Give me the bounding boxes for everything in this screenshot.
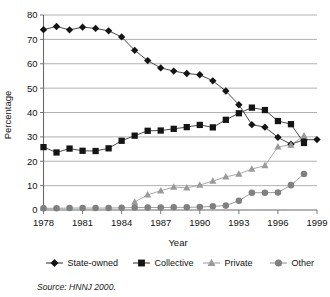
y-axis-title: Percentage — [2, 91, 13, 140]
data-point — [66, 205, 73, 212]
data-point — [301, 140, 307, 146]
data-point — [275, 118, 281, 124]
y-tick-label-20: 20 — [27, 156, 38, 167]
y-tick-label-50: 50 — [27, 83, 38, 94]
x-tick-label-1984: 1984 — [111, 217, 132, 228]
x-tick-label-1978: 1978 — [33, 217, 54, 228]
series-lines-group — [44, 26, 318, 208]
data-point — [249, 189, 256, 196]
data-point — [183, 204, 190, 211]
data-point — [301, 171, 308, 178]
data-point — [40, 144, 46, 150]
data-point — [145, 128, 151, 134]
data-point — [131, 198, 138, 204]
data-point — [184, 124, 190, 130]
data-point — [170, 204, 177, 211]
data-point — [79, 148, 85, 154]
triangle-marker-icon — [208, 259, 216, 266]
data-point — [40, 205, 47, 212]
data-point — [40, 26, 47, 33]
data-point — [210, 124, 216, 130]
gridlines-group — [44, 15, 318, 186]
y-tick-label-70: 70 — [27, 34, 38, 45]
data-point — [209, 77, 216, 84]
chart-legend: State-ownedCollectivePrivateOther — [46, 258, 314, 268]
data-point — [132, 133, 138, 139]
data-point — [197, 204, 204, 211]
data-point — [131, 204, 138, 211]
series-markers-private — [131, 132, 307, 205]
data-point — [183, 70, 190, 77]
series-markers-state-owned — [40, 23, 321, 148]
x-tick-label-1993: 1993 — [228, 217, 249, 228]
data-point — [79, 205, 86, 212]
data-point — [79, 24, 86, 31]
series-line-state-owned — [44, 26, 318, 144]
data-point — [105, 27, 112, 34]
data-point — [288, 121, 294, 127]
data-point — [171, 126, 177, 132]
data-point — [92, 205, 99, 212]
data-point — [53, 149, 59, 155]
y-tick-label-30: 30 — [27, 131, 38, 142]
legend-label-collective: Collective — [155, 258, 194, 268]
y-tick-labels-group: 01020304050607080 — [27, 9, 38, 215]
data-point — [274, 134, 281, 141]
data-point — [288, 182, 295, 189]
source-note: Source: HNNJ 2000. — [37, 282, 116, 292]
x-tick-label-1999: 1999 — [306, 217, 327, 228]
x-tick-labels-group: 19781981198419871990199319961999 — [33, 217, 328, 228]
y-tick-label-40: 40 — [27, 107, 38, 118]
axes-group — [40, 15, 317, 214]
y-tick-label-60: 60 — [27, 58, 38, 69]
data-point — [92, 25, 99, 32]
x-tick-label-1996: 1996 — [267, 217, 288, 228]
y-tick-label-10: 10 — [27, 180, 38, 191]
data-point — [248, 121, 255, 128]
data-point — [53, 205, 60, 212]
y-tick-label-80: 80 — [27, 9, 38, 20]
circle-marker-icon — [275, 259, 282, 266]
data-point — [144, 57, 151, 64]
data-point — [196, 71, 203, 78]
data-point — [170, 183, 177, 189]
data-point — [66, 26, 73, 33]
series-markers-group — [40, 23, 321, 212]
diamond-marker-icon — [50, 259, 58, 267]
data-point — [300, 132, 307, 138]
legend-label-other: Other — [292, 258, 315, 268]
data-point — [105, 205, 112, 212]
data-point — [249, 104, 255, 110]
data-point — [170, 67, 177, 74]
data-point — [157, 64, 164, 71]
data-point — [261, 162, 268, 168]
y-tick-label-0: 0 — [32, 204, 37, 215]
line-chart-canvas: 01020304050607080 1978198119841987199019… — [0, 0, 330, 297]
data-point — [119, 138, 125, 144]
legend-label-private: Private — [225, 258, 253, 268]
data-point — [262, 189, 269, 196]
data-point — [197, 122, 203, 128]
square-marker-icon — [138, 260, 145, 267]
data-point — [236, 197, 243, 204]
data-point — [261, 123, 268, 130]
data-point — [53, 23, 60, 30]
x-axis-title: Year — [168, 237, 187, 248]
series-markers-other — [40, 171, 307, 212]
legend-label-state-owned: State-owned — [68, 258, 119, 268]
data-point — [144, 204, 151, 211]
x-tick-label-1990: 1990 — [189, 217, 210, 228]
data-point — [118, 205, 125, 212]
data-point — [210, 203, 217, 210]
data-point — [66, 145, 72, 151]
data-point — [262, 107, 268, 113]
data-point — [223, 117, 229, 123]
chart-figure: 01020304050607080 1978198119841987199019… — [0, 0, 330, 297]
data-point — [105, 145, 111, 151]
data-point — [236, 110, 242, 116]
data-point — [157, 204, 164, 211]
data-point — [92, 148, 98, 154]
data-point — [158, 127, 164, 133]
x-tick-label-1981: 1981 — [72, 217, 93, 228]
x-tick-label-1987: 1987 — [150, 217, 171, 228]
